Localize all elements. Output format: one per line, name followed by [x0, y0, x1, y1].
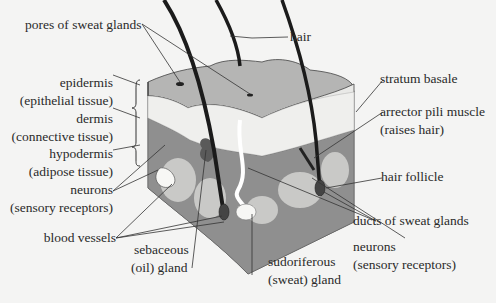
- skin-block: [148, 0, 354, 274]
- hair-follicle: [219, 204, 229, 220]
- label-neurons-right-sub: (sensory receptors): [353, 256, 456, 273]
- label-sebaceous: sebaceous: [134, 241, 189, 258]
- hair-follicle: [315, 180, 325, 196]
- label-epidermis: epidermis: [60, 74, 113, 91]
- label-hypodermis: hypodermis: [49, 145, 113, 162]
- label-arrector-pili: arrector pili muscle: [380, 103, 485, 120]
- label-sudoriferous-sub: (sweat) gland: [268, 271, 341, 288]
- label-neurons-right: neurons: [353, 238, 396, 255]
- label-dermis: dermis: [76, 110, 113, 127]
- label-blood-vessels: blood vessels: [44, 229, 116, 246]
- adipose-lobe: [321, 152, 349, 188]
- label-neurons-left: neurons: [70, 181, 113, 198]
- label-dermis-sub: (connective tissue): [11, 128, 113, 145]
- label-hair: hair: [290, 28, 311, 45]
- label-epidermis-sub: (epithelial tissue): [20, 92, 113, 109]
- label-neurons-left-sub: (sensory receptors): [10, 199, 113, 216]
- layer-brace: [132, 80, 140, 166]
- label-pores-of-sweat-glands: pores of sweat glands: [25, 16, 142, 33]
- label-arrector-pili-sub: (raises hair): [380, 121, 444, 138]
- sweat-gland: [236, 204, 256, 220]
- label-sebaceous-sub: (oil) gland: [131, 259, 188, 276]
- label-sudoriferous: sudoriferous: [268, 253, 336, 270]
- sweat-pore: [176, 82, 184, 86]
- label-hypodermis-sub: (adipose tissue): [29, 163, 113, 180]
- hair-2: [216, 0, 240, 66]
- skin-diagram: pores of sweat glands hair epidermis (ep…: [0, 0, 496, 303]
- label-ducts-of-sweat-glands: ducts of sweat glands: [353, 212, 469, 229]
- label-stratum-basale: stratum basale: [380, 70, 458, 87]
- label-hair-follicle: hair follicle: [381, 168, 444, 185]
